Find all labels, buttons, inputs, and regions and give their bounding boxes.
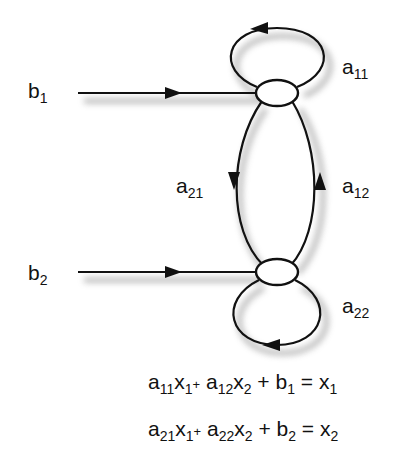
eq1-x2-sub: 2 bbox=[244, 381, 252, 397]
label-a12-sub: 12 bbox=[354, 185, 370, 201]
eq2-rhs-sub: 2 bbox=[330, 428, 338, 444]
arrow-b2-icon bbox=[165, 266, 182, 278]
node-x2 bbox=[256, 259, 298, 285]
label-a21-base: a bbox=[176, 174, 188, 197]
eq2-x: x bbox=[175, 417, 186, 440]
eq2-a: a bbox=[148, 417, 160, 440]
label-b1: b1 bbox=[28, 80, 47, 105]
label-a21-sub: 21 bbox=[188, 185, 204, 201]
label-a11: a11 bbox=[342, 56, 368, 81]
eq1-plus-b: + b bbox=[252, 370, 288, 393]
eq2-x2-sub: 2 bbox=[245, 428, 253, 444]
eq1-a2: a bbox=[206, 370, 218, 393]
eq2-equals-x: = x bbox=[296, 417, 330, 440]
label-a11-sub: 11 bbox=[354, 66, 369, 82]
label-a22-sub: 22 bbox=[354, 305, 370, 321]
eq2-plus: + bbox=[194, 424, 202, 439]
arrow-b1-icon bbox=[165, 87, 182, 99]
label-a11-base: a bbox=[342, 55, 354, 78]
label-b2-base: b bbox=[28, 261, 40, 284]
eq2-b-sub: 2 bbox=[288, 428, 296, 444]
eq2-x-sub: 1 bbox=[186, 428, 194, 444]
eq1-a-sub: 11 bbox=[160, 381, 175, 397]
eq1-equals-x: = x bbox=[295, 370, 329, 393]
eq2-a2-sub: 22 bbox=[219, 428, 235, 444]
eq2-x2: x bbox=[234, 417, 245, 440]
label-a12: a12 bbox=[342, 175, 369, 200]
eq1-a2-sub: 12 bbox=[218, 381, 234, 397]
label-b1-sub: 1 bbox=[40, 90, 48, 106]
label-a22-base: a bbox=[342, 294, 354, 317]
label-b1-base: b bbox=[28, 79, 40, 102]
eq2-plus-b: + b bbox=[253, 417, 289, 440]
eq1-x-sub: 1 bbox=[185, 381, 193, 397]
eq1-plus: + bbox=[193, 377, 201, 392]
equation-1: a11x1+ a12x2 + b1 = x1 bbox=[148, 371, 337, 396]
label-b2: b2 bbox=[28, 262, 47, 287]
eq1-b-sub: 1 bbox=[287, 381, 295, 397]
eq1-a: a bbox=[148, 370, 160, 393]
eq2-a2: a bbox=[207, 417, 219, 440]
eq1-rhs-sub: 1 bbox=[329, 381, 337, 397]
eq2-a-sub: 21 bbox=[160, 428, 176, 444]
eq1-x2: x bbox=[233, 370, 244, 393]
node-x1 bbox=[256, 80, 298, 106]
label-b2-sub: 2 bbox=[40, 272, 48, 288]
label-a21: a21 bbox=[176, 175, 203, 200]
label-a22: a22 bbox=[342, 295, 369, 320]
eq1-x: x bbox=[174, 370, 185, 393]
label-a12-base: a bbox=[342, 174, 354, 197]
equation-2: a21x1+ a22x2 + b2 = x2 bbox=[148, 418, 338, 443]
